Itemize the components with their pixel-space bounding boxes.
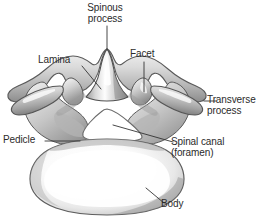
label-lamina: Lamina	[38, 54, 90, 65]
label-transverse-process: Transverse process	[207, 94, 265, 116]
label-facet-line1: Facet	[130, 48, 170, 59]
label-spinal-canal-line1: Spinal canal	[171, 136, 261, 147]
label-transverse-process-line2: process	[207, 105, 265, 116]
label-transverse-process-line1: Transverse	[207, 94, 265, 105]
label-body-line1: Body	[161, 198, 195, 209]
label-spinal-canal: Spinal canal (foramen)	[171, 136, 261, 158]
label-pedicle-line1: Pedicle	[3, 134, 51, 145]
label-pedicle: Pedicle	[3, 134, 51, 145]
label-facet: Facet	[130, 48, 170, 59]
label-spinous-process-line1: Spinous	[69, 2, 141, 13]
vertebra-diagram-page: Spinous process Lamina Facet Transverse …	[0, 0, 265, 223]
label-spinous-process: Spinous process	[69, 2, 141, 24]
label-spinous-process-line2: process	[69, 13, 141, 24]
label-spinal-canal-line2: (foramen)	[171, 147, 261, 158]
label-body: Body	[161, 198, 195, 209]
body-highlight	[52, 154, 112, 186]
label-lamina-line1: Lamina	[38, 54, 90, 65]
